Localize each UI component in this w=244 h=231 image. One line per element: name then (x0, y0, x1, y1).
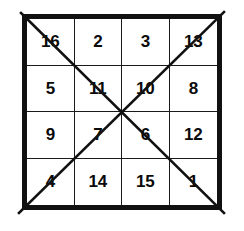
cell-r4c4: 1 (170, 159, 218, 206)
cell-value: 1 (189, 173, 198, 190)
cell-r3c1: 9 (27, 112, 75, 159)
cell-r3c2: 7 (75, 112, 123, 159)
cell-value: 16 (41, 33, 59, 50)
cell-r4c3: 15 (122, 159, 170, 206)
cell-r2c2: 11 (75, 66, 123, 113)
cell-r1c3: 3 (122, 19, 170, 66)
cell-r2c3: 10 (122, 66, 170, 113)
cell-value: 13 (184, 33, 202, 50)
cell-r1c1: 16 (27, 19, 75, 66)
cell-r3c3: 6 (122, 112, 170, 159)
cell-value: 3 (141, 33, 150, 50)
cell-value: 6 (141, 126, 150, 143)
cell-value: 8 (189, 80, 198, 97)
cell-value: 7 (93, 126, 102, 143)
magic-square-grid: 16 2 3 13 5 11 10 8 9 7 6 (27, 19, 217, 205)
cell-value: 12 (184, 126, 202, 143)
cell-value: 9 (46, 126, 55, 143)
cell-r4c1: 4 (27, 159, 75, 206)
cell-value: 11 (89, 80, 106, 97)
cell-r2c4: 8 (170, 66, 218, 113)
cell-value: 4 (46, 173, 55, 190)
cell-value: 2 (93, 33, 102, 50)
magic-square-figure: 16 2 3 13 5 11 10 8 9 7 6 (0, 0, 244, 231)
cell-r1c4: 13 (170, 19, 218, 66)
cell-r3c4: 12 (170, 112, 218, 159)
cell-value: 5 (46, 80, 55, 97)
cell-value: 10 (136, 80, 154, 97)
cell-value: 15 (136, 173, 154, 190)
cell-r4c2: 14 (75, 159, 123, 206)
cell-r1c2: 2 (75, 19, 123, 66)
cell-value: 14 (89, 173, 107, 190)
cell-r2c1: 5 (27, 66, 75, 113)
